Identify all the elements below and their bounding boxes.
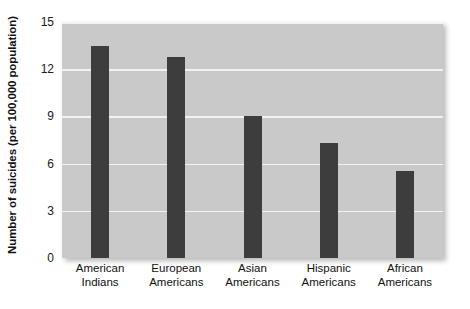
y-axis-tick-label: 6: [47, 157, 54, 171]
bar: [244, 116, 262, 258]
x-axis-tick-label-line: Asian: [225, 262, 279, 276]
bar: [396, 171, 414, 258]
x-axis-tick-label: HispanicAmericans: [302, 262, 356, 289]
bar-chart-figure: Number of suicides (per 100,000 populati…: [0, 0, 470, 309]
bar: [167, 57, 185, 258]
y-axis-tick-label: 15: [41, 15, 54, 29]
y-axis-tick-label: 0: [47, 251, 54, 265]
x-axis-tick-label: AfricanAmericans: [378, 262, 432, 289]
x-axis-tick-label-line: American: [76, 262, 125, 276]
bar-series: [62, 22, 443, 258]
x-axis-tick-label-line: Americans: [149, 276, 203, 290]
plot-area: [62, 22, 443, 258]
x-axis-tick-label-line: Indians: [76, 276, 125, 290]
x-axis-tick-label-line: Americans: [378, 276, 432, 290]
bar: [91, 46, 109, 258]
x-axis-tick-label-line: Hispanic: [302, 262, 356, 276]
y-axis-title: Number of suicides (per 100,000 populati…: [0, 0, 24, 270]
y-axis-title-text: Number of suicides (per 100,000 populati…: [6, 16, 18, 254]
x-axis-tick-label-line: African: [378, 262, 432, 276]
y-axis-tick-label: 12: [41, 62, 54, 76]
x-axis-tick-label: AsianAmericans: [225, 262, 279, 289]
bar: [320, 143, 338, 258]
y-axis-tick-label: 9: [47, 109, 54, 123]
y-axis-tick-label: 3: [47, 204, 54, 218]
x-axis-tick-label-line: Americans: [302, 276, 356, 290]
x-axis-tick-label: AmericanIndians: [76, 262, 125, 289]
y-axis-tick-labels: 03691215: [26, 0, 58, 309]
x-axis-tick-label: EuropeanAmericans: [149, 262, 203, 289]
x-axis-tick-labels: AmericanIndiansEuropeanAmericansAsianAme…: [62, 262, 443, 308]
x-axis-tick-label-line: Americans: [225, 276, 279, 290]
x-axis-tick-label-line: European: [149, 262, 203, 276]
